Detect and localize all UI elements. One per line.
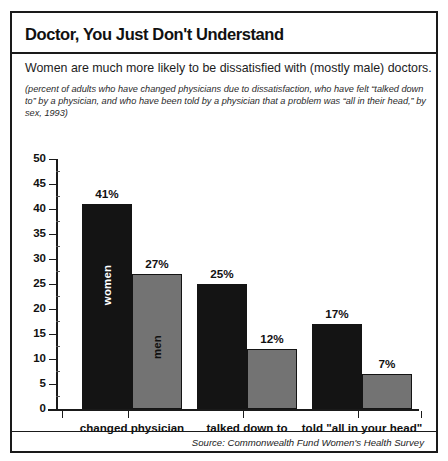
y-axis-label: 35 [16, 228, 46, 240]
y-axis-minor-tick [56, 396, 60, 397]
y-axis-tick [49, 309, 56, 310]
series-label-women: women [101, 265, 113, 305]
bar-men-2 [247, 349, 297, 409]
bar-value-women-1: 41% [76, 188, 138, 200]
y-axis-minor-tick [56, 271, 60, 272]
y-axis-minor-tick [56, 296, 60, 297]
series-label-men: men [151, 335, 163, 359]
y-axis-label: 25 [16, 278, 46, 290]
title-divider [12, 52, 436, 54]
y-axis-minor-tick [56, 346, 60, 347]
chart-note: (percent of adults who have changed phys… [25, 83, 429, 120]
y-axis-minor-tick [56, 196, 60, 197]
category-label-2: talked down to [185, 421, 309, 434]
chart-subtitle: Women are much more likely to be dissati… [25, 61, 429, 75]
bar-women-2 [197, 284, 247, 409]
x-axis-baseline [48, 409, 419, 411]
bar-value-men-2: 12% [241, 333, 303, 345]
bar-value-women-2: 25% [191, 268, 253, 280]
bar-value-women-3: 17% [306, 308, 368, 320]
bar-women-1: women [82, 204, 132, 409]
chart-source: Source: Commonwealth Fund Women's Health… [192, 437, 424, 448]
bar-women-3 [312, 324, 362, 409]
y-axis-tick [49, 259, 56, 260]
bar-value-men-3: 7% [356, 358, 418, 370]
y-axis-label: 45 [16, 178, 46, 190]
y-axis-tick [49, 159, 56, 160]
page-title: Doctor, You Just Don't Understand [25, 25, 284, 44]
bar-men-3 [362, 374, 412, 409]
category-label-3: told "all in your head" [300, 421, 424, 434]
y-axis-label: 0 [16, 403, 46, 415]
y-axis-label: 10 [16, 353, 46, 365]
category-tick-edge-1 [62, 411, 63, 418]
y-axis-tick [49, 234, 56, 235]
y-axis-label: 40 [16, 203, 46, 215]
y-axis-label: 20 [16, 303, 46, 315]
category-tick [358, 411, 359, 418]
category-tick [243, 411, 244, 418]
source-divider [12, 431, 436, 432]
y-axis-tick [49, 384, 56, 385]
y-axis-tick [49, 409, 56, 410]
y-axis-minor-tick [56, 321, 60, 322]
y-axis-minor-tick [56, 246, 60, 247]
y-axis-minor-tick [56, 221, 60, 222]
y-axis-tick [49, 209, 56, 210]
plot-area: 05101520253035404550 women41%men27%25%12… [56, 159, 419, 411]
y-axis-tick [49, 359, 56, 360]
y-axis-tick [49, 184, 56, 185]
category-tick-edge-2 [421, 411, 422, 418]
y-axis-tick [49, 284, 56, 285]
y-axis-minor-tick [56, 371, 60, 372]
y-axis-label: 30 [16, 253, 46, 265]
y-axis-label: 5 [16, 378, 46, 390]
y-axis-minor-tick [56, 171, 60, 172]
category-label-1: changed physician [70, 421, 194, 434]
y-axis-label: 15 [16, 328, 46, 340]
chart-figure: Doctor, You Just Don't Understand Women … [10, 11, 438, 453]
bar-value-men-1: 27% [126, 258, 188, 270]
category-tick [128, 411, 129, 418]
bar-men-1: men [132, 274, 182, 409]
y-axis-label: 50 [16, 153, 46, 165]
y-axis-tick [49, 334, 56, 335]
